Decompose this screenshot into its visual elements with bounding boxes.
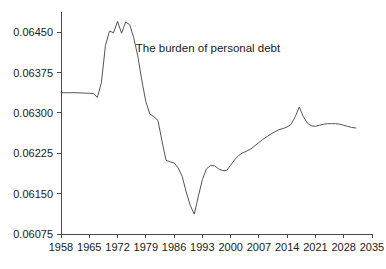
chart-annotation-group: The burden of personal debt — [136, 42, 281, 54]
x-axis-tick-label: 2000 — [218, 241, 242, 253]
y-axis-tick-label: 0.06450 — [13, 26, 53, 38]
x-axis-tick-label: 2021 — [303, 241, 327, 253]
y-axis-tick-label: 0.06075 — [13, 228, 53, 240]
y-axis-tick-label: 0.06300 — [13, 107, 53, 119]
y-axis-tick-label: 0.06225 — [13, 147, 53, 159]
x-axis-tick-label: 2028 — [331, 241, 355, 253]
x-axis-tick-label: 1965 — [77, 241, 101, 253]
x-axis-tick-label: 1958 — [49, 241, 73, 253]
x-axis-tick-label: 2014 — [275, 241, 299, 253]
x-axis-tick-label: 2007 — [247, 241, 271, 253]
x-axis-tick-label: 2035 — [360, 241, 384, 253]
line-chart: 0.060750.061500.062250.063000.063750.064… — [0, 0, 386, 269]
y-axis: 0.060750.061500.062250.063000.063750.064… — [13, 12, 61, 240]
x-axis-tick-label: 1972 — [105, 241, 129, 253]
y-axis-tick-label: 0.06150 — [13, 188, 53, 200]
x-axis-tick-label: 1993 — [190, 241, 214, 253]
x-axis: 1958196519721979198619932000200720142021… — [49, 234, 384, 253]
x-axis-tick-label: 1986 — [162, 241, 186, 253]
x-axis-tick-label: 1979 — [134, 241, 158, 253]
chart-container: 0.060750.061500.062250.063000.063750.064… — [0, 0, 386, 269]
y-axis-tick-label: 0.06375 — [13, 67, 53, 79]
chart-annotation-label: The burden of personal debt — [136, 42, 281, 54]
